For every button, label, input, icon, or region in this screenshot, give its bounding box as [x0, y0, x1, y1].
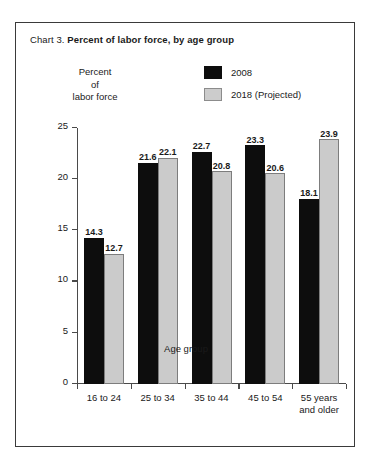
bar-value-label: 20.6	[267, 163, 285, 173]
x-tick-2	[185, 384, 186, 389]
y-tick-label-5: 5	[63, 325, 68, 336]
chart-title: Chart 3. Percent of labor force, by age …	[30, 34, 234, 45]
legend-label-2008: 2008	[231, 67, 252, 78]
bar-value-label: 22.1	[159, 147, 177, 157]
bar-value-label: 18.1	[300, 188, 318, 198]
legend-swatch-2018	[204, 88, 222, 101]
bar-2008-4: 18.1	[299, 199, 319, 384]
y-tick-label-25: 25	[57, 120, 68, 131]
y-axis-title-line-2: of	[53, 79, 137, 92]
y-tick-10: 10	[72, 280, 77, 281]
bar-2018-0: 12.7	[104, 254, 124, 384]
category-label-1: 25 to 34	[131, 392, 185, 404]
chart-frame: Chart 3. Percent of labor force, by age …	[15, 22, 355, 447]
y-tick-label-10: 10	[57, 273, 68, 284]
chart-legend: 2008 2018 (Projected)	[204, 63, 301, 107]
bar-value-label: 23.3	[247, 135, 265, 145]
bar-2008-0: 14.3	[84, 238, 104, 384]
x-tick-5	[346, 384, 347, 389]
legend-item-2018: 2018 (Projected)	[204, 85, 301, 103]
y-axis-title-line-3: labor force	[53, 91, 137, 104]
bar-value-label: 23.9	[320, 129, 338, 139]
bar-value-label: 14.3	[85, 227, 103, 237]
y-tick-25: 25	[72, 127, 77, 128]
y-axis-title-line-1: Percent	[53, 66, 137, 79]
x-tick-1	[131, 384, 132, 389]
legend-label-2018: 2018 (Projected)	[231, 89, 301, 100]
y-tick-label-15: 15	[57, 222, 68, 233]
bar-value-label: 20.8	[213, 161, 231, 171]
category-label-4: 55 years and older	[292, 392, 346, 416]
bar-value-label: 12.7	[105, 243, 123, 253]
x-tick-0	[77, 384, 78, 389]
legend-item-2008: 2008	[204, 63, 301, 81]
x-tick-4	[292, 384, 293, 389]
chart-title-text: Percent of labor force, by age group	[67, 34, 234, 45]
y-tick-5: 5	[72, 332, 77, 333]
legend-swatch-2008	[204, 66, 222, 79]
chart-title-number: Chart 3.	[30, 34, 65, 45]
bar-value-label: 22.7	[193, 141, 211, 151]
y-tick-label-20: 20	[57, 171, 68, 182]
y-tick-20: 20	[72, 178, 77, 179]
y-tick-label-0: 0	[63, 376, 68, 387]
category-label-0: 16 to 24	[77, 392, 131, 404]
category-label-3: 45 to 54	[238, 392, 292, 404]
bar-value-label: 21.6	[139, 152, 157, 162]
y-axis-title: Percent of labor force	[53, 66, 137, 104]
x-tick-3	[238, 384, 239, 389]
y-tick-15: 15	[72, 229, 77, 230]
category-label-2: 35 to 44	[185, 392, 239, 404]
x-axis-title: Age group	[16, 343, 356, 354]
